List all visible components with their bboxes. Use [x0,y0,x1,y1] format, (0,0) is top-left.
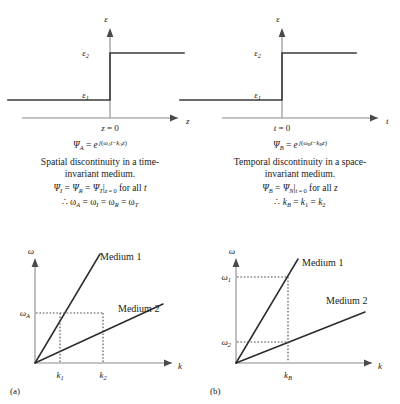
wave-equation-b: ΨB = e j(ωBt−kBz) [200,136,400,154]
medium-1-line [236,259,298,363]
x-axis-arrow [364,360,372,367]
conclusion-a: ∴ ωA = ωI = ωR = ωT [0,196,200,211]
level-high-label: ε2 [82,48,90,59]
conclusion-b: ∴ kB = k1 = k2 [200,196,400,211]
step-curve [8,53,184,100]
y-axis-arrow [32,258,39,267]
condition-b: ΨB = ΨN|t = 0 for all z [200,181,400,197]
y-axis-label: ε [104,14,108,24]
panel-b: ε t ε2 ε1 t = 0 ΨB = e j(ωBt−kBz) Tempor… [200,0,400,404]
omega-a-label: ωA [20,308,30,319]
caption-a: Spatial discontinuity in a time- invaria… [0,156,200,180]
caption-line-1: Spatial discontinuity in a time- [41,156,159,167]
y-axis-label: ω [28,246,34,256]
y-axis-label: ω [229,246,235,256]
caption-line-2: invariant medium. [265,168,335,179]
level-low-label: ε1 [254,90,261,101]
x-axis-label: z [185,116,190,126]
physics-figure: ε z ε2 ε1 z = 0 ΨA = e j(ωAt−kAz) Spatia… [0,0,400,404]
level-low-label: ε1 [82,90,89,101]
step-curve [180,53,356,100]
k2-label: k2 [99,370,107,381]
level-high-label: ε2 [254,48,262,59]
dispersion-chart-b: ω k ω1 ω2 kB Medium 1 Medium 2 (b) [200,234,400,404]
medium-1-label: Medium 1 [302,257,343,268]
caption-b: Temporal discontinuity in a space- invar… [200,156,400,180]
x-axis-label: t [386,116,389,126]
y-axis-arrow [107,28,114,37]
origin-label: z = 0 [100,123,119,133]
x-axis-arrow [164,360,172,367]
y-axis-arrow [279,28,286,37]
k1-label: k1 [56,370,63,381]
medium-2-line [236,312,365,363]
medium-2-label: Medium 2 [326,295,367,306]
x-axis-label: k [178,361,183,371]
medium-1-line [35,254,100,363]
step-chart-b: ε t ε2 ε1 t = 0 [200,0,400,140]
y-axis-label: ε [276,14,280,24]
caption-line-2: invariant medium. [65,168,135,179]
medium-2-label: Medium 2 [118,303,159,314]
panel-tag: (b) [210,386,221,396]
medium-1-label: Medium 1 [100,251,141,262]
panel-a: ε z ε2 ε1 z = 0 ΨA = e j(ωAt−kAz) Spatia… [0,0,200,404]
kb-label: kB [284,370,292,381]
x-axis-arrow [370,115,378,122]
x-axis-label: k [378,361,383,371]
step-chart-a: ε z ε2 ε1 z = 0 [0,0,200,140]
dispersion-chart-a: ω k ωA k1 k2 Medium 1 Medium 2 (a) [0,234,200,404]
panel-tag: (a) [10,386,20,396]
origin-label: t = 0 [274,123,291,133]
x-axis-arrow [170,115,178,122]
caption-line-1: Temporal discontinuity in a space- [234,156,367,167]
wave-equation-a: ΨA = e j(ωAt−kAz) [0,136,200,154]
condition-a: ΨI = ΨR = ΨT|z = 0 for all t [0,181,200,197]
omega-1-label: ω1 [221,272,231,283]
y-axis-arrow [233,258,240,267]
omega-2-label: ω2 [221,337,231,348]
